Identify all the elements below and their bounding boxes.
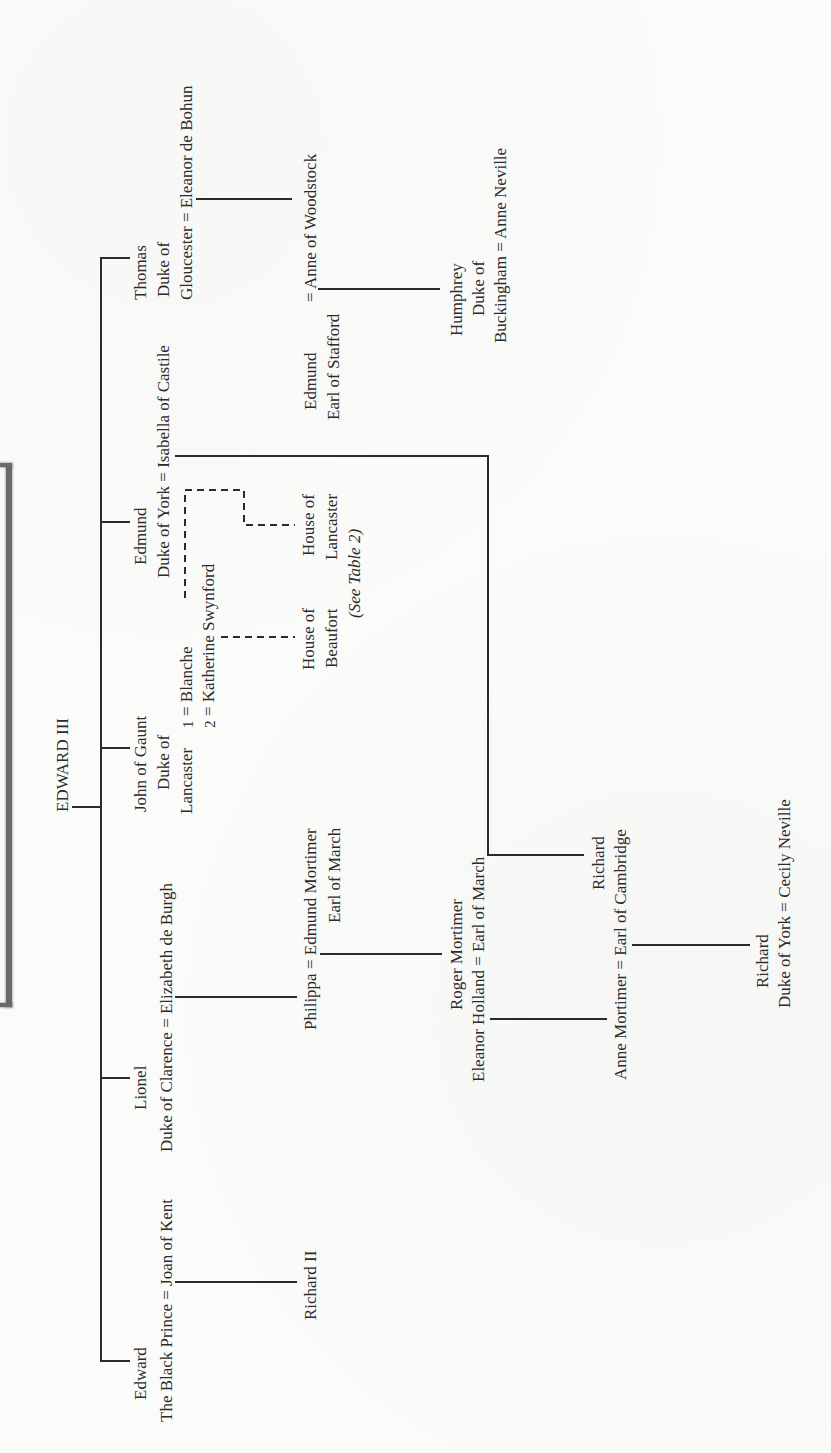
person-humphrey: Humphrey [446,263,468,336]
couple-eleanor-roger: Eleanor Holland = Earl of March [468,857,490,1082]
couple-thomas-eleanor: Gloucester = Eleanor de Bohun [176,86,198,300]
see-table-2-text: (See Table 2) [345,529,364,618]
house-of-beaufort-2: Beaufort [321,609,343,668]
title-earl-of-march-1: Earl of March [324,828,346,923]
couple-richard-york-cecily: Duke of York = Cecily Neville [774,799,796,1008]
house-of-lancaster-2: Lancaster [321,494,343,560]
title-duke-of-gloucester-1: Duke of [153,242,175,297]
couple-edmund-isabella: Duke of York = Isabella of Castile [153,345,175,578]
title-duke-of-buckingham-1: Duke of [468,261,490,316]
person-roger-mortimer: Roger Mortimer [446,899,468,1010]
couple-anne-mortimer-richard-cambridge: Anne Mortimer = Earl of Cambridge [610,829,632,1080]
person-richard-cambridge: Richard [588,836,610,890]
person-edmund-earl-of-stafford: Edmund [300,352,322,410]
person-edward-iii: EDWARD III [52,718,74,812]
spouse-katherine-swynford: = Katherine Swynford [198,564,220,716]
person-richard-ii: Richard II [300,1251,322,1320]
marriage-number-2: 2 [199,721,221,729]
connector-lines [0,0,831,1453]
marriage-number-1: 1 [177,721,199,729]
title-duke-of-lancaster-1: Duke of [153,735,175,790]
house-of-beaufort-1: House of [298,608,320,670]
person-edmund-duke-of-york: Edmund [130,507,152,565]
see-table-2-note: (See Table 2) [344,529,366,618]
couple-humphrey-anne-neville: Buckingham = Anne Neville [490,148,512,343]
person-edward-black-prince: Edward [130,1347,152,1400]
couple-black-prince-joan: The Black Prince = Joan of Kent [156,1199,178,1422]
title-earl-of-stafford: Earl of Stafford [323,314,345,420]
person-thomas: Thomas [130,245,152,300]
person-richard-duke-of-york: Richard [752,934,774,988]
couple-lionel-elizabeth: Duke of Clarence = Elizabeth de Burgh [156,883,178,1152]
person-john-of-gaunt: John of Gaunt [130,716,152,812]
line-richard-cambridge [175,456,584,855]
person-lionel: Lionel [130,1066,152,1110]
title-duke-of-lancaster-2: Lancaster [176,748,198,814]
spouse-anne-of-woodstock: = Anne of Woodstock [300,154,322,302]
spouse-blanche: = Blanche [176,646,198,716]
couple-philippa-edmund-mortimer: Philippa = Edmund Mortimer [300,828,322,1030]
house-of-lancaster-1: House of [298,494,320,556]
